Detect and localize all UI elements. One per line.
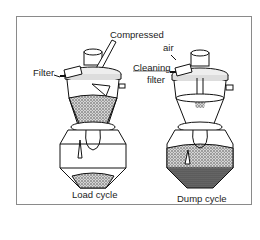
dump-cycle-caption: Dump cycle xyxy=(177,194,227,204)
cleaning-filter-label: Cleaning xyxy=(133,63,171,73)
compressed-air-label: Compressed xyxy=(110,30,164,40)
cleaning-filter-label-line2: filter xyxy=(147,75,165,85)
load-cycle-caption: Load cycle xyxy=(72,190,117,200)
compressed-air-label-line2: air xyxy=(163,43,174,53)
filter-label: Filter xyxy=(33,68,54,78)
load-cycle-loader xyxy=(60,40,126,188)
dump-cycle-loader xyxy=(167,50,233,188)
